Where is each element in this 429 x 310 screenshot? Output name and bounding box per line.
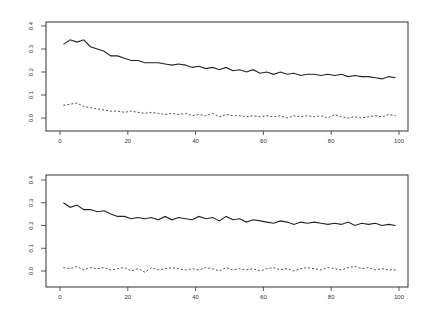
series-dashed-line xyxy=(63,103,395,118)
y-tick-label: 0.1 xyxy=(28,243,34,252)
y-tick-label: 0.3 xyxy=(28,198,34,207)
chart-panel-2: 0204060801000.00.10.20.30.4 xyxy=(28,175,408,300)
y-tick-label: 0.2 xyxy=(28,221,34,230)
x-tick-label: 60 xyxy=(260,294,267,300)
x-tick-label: 40 xyxy=(192,294,199,300)
y-tick-label: 0.3 xyxy=(28,44,34,53)
y-tick-label: 0.0 xyxy=(28,113,34,122)
x-tick-label: 80 xyxy=(328,294,335,300)
series-solid-line xyxy=(63,40,395,79)
x-tick-label: 20 xyxy=(124,294,131,300)
x-tick-label: 0 xyxy=(58,294,62,300)
y-tick-label: 0.4 xyxy=(28,175,34,184)
x-tick-label: 60 xyxy=(260,138,267,144)
x-tick-label: 80 xyxy=(328,138,335,144)
chart-panel-1: 0204060801000.00.10.20.30.4 xyxy=(28,21,408,144)
y-tick-label: 0.0 xyxy=(28,266,34,275)
y-tick-label: 0.4 xyxy=(28,21,34,30)
series-solid-line xyxy=(63,203,395,226)
y-tick-label: 0.1 xyxy=(28,90,34,99)
series-dashed-line xyxy=(63,266,395,272)
x-tick-label: 100 xyxy=(394,294,405,300)
plot-frame xyxy=(46,175,408,287)
y-tick-label: 0.2 xyxy=(28,67,34,76)
x-tick-label: 40 xyxy=(192,138,199,144)
chart-canvas: 0204060801000.00.10.20.30.40204060801000… xyxy=(0,0,429,310)
x-tick-label: 0 xyxy=(58,138,62,144)
x-tick-label: 20 xyxy=(124,138,131,144)
x-tick-label: 100 xyxy=(394,138,405,144)
